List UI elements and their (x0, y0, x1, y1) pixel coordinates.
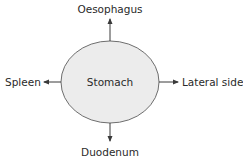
spleen-label: Spleen (5, 76, 41, 88)
stomach-node: Stomach (61, 41, 159, 123)
duodenum-label: Duodenum (81, 146, 139, 158)
lateral-side-label: Lateral side (182, 76, 243, 88)
relation-up: Oesophagus (77, 3, 142, 41)
relation-right: Lateral side (159, 76, 243, 88)
oesophagus-label: Oesophagus (77, 3, 142, 15)
stomach-relations-diagram: Stomach Oesophagus Spleen Lateral side D… (0, 0, 243, 163)
relation-down: Duodenum (81, 123, 139, 158)
stomach-label: Stomach (87, 76, 133, 88)
relation-left: Spleen (5, 76, 61, 88)
